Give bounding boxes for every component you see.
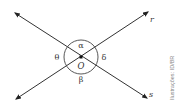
angle-label-alpha: α: [78, 41, 84, 50]
center-point: [80, 56, 83, 59]
angle-label-beta: β: [79, 75, 84, 84]
angle-label-delta: δ: [102, 53, 107, 62]
line-label-s: s: [149, 90, 153, 99]
angle-diagram: α δ β θ O r s Ilustrações: ID/BR: [0, 0, 179, 108]
center-label-o: O: [78, 61, 85, 71]
angle-label-theta: θ: [55, 53, 60, 62]
line-label-r: r: [150, 15, 155, 24]
image-credit: Ilustrações: ID/BR: [169, 56, 175, 100]
